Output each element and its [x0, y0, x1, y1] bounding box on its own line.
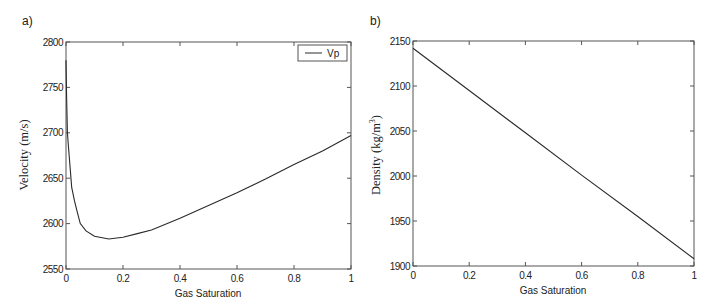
plot-area-a	[66, 42, 351, 269]
x-tick-label: 0.8	[632, 270, 645, 281]
figure: 00.20.40.60.81 255026002650270027502800 …	[0, 0, 713, 306]
y-axis-title-a: Velocity (m/s)	[17, 119, 31, 190]
chart-a: 00.20.40.60.81 255026002650270027502800 …	[17, 37, 354, 300]
y-tick-label: 2050	[390, 126, 411, 137]
x-tick-label: 0	[410, 270, 416, 281]
y-tick-label: 2000	[390, 171, 411, 182]
x-tick-label: 0.4	[519, 270, 532, 281]
x-tick-label: 1	[348, 273, 354, 284]
chart-b: 00.20.40.60.81 190019502000205021002150 …	[368, 36, 697, 297]
x-tick-label: 0.4	[174, 273, 187, 284]
y-axis-title-b-main: Density (kg/m	[369, 123, 383, 195]
x-tick-label: 0	[63, 273, 69, 284]
x-axis-title-a: Gas Saturation	[175, 288, 242, 299]
y-tick-label: 2150	[390, 36, 411, 47]
y-tick-label: 1950	[390, 216, 411, 227]
y-tick-label: 1900	[390, 261, 411, 272]
y-tick-label: 2650	[43, 173, 64, 184]
y-tick-label: 2600	[43, 218, 64, 229]
x-tick-label: 0.6	[575, 270, 588, 281]
y-axis-title-b-close: )	[369, 115, 383, 119]
y-tick-label: 2100	[390, 81, 411, 92]
y-tick-label: 2750	[43, 82, 64, 93]
legend-label-vp: Vp	[327, 48, 340, 59]
legend-a: Vp	[298, 45, 347, 61]
y-axis-title-b: Density (kg/m3)	[368, 115, 383, 195]
x-tick-label: 1	[691, 270, 697, 281]
y-tick-label: 2700	[43, 127, 64, 138]
y-tick-label: 2800	[43, 37, 64, 48]
y-tick-label: 2550	[43, 264, 64, 275]
x-tick-label: 0.2	[117, 273, 130, 284]
x-tick-label: 0.6	[231, 273, 244, 284]
x-tick-label: 0.8	[288, 273, 301, 284]
x-axis-title-b: Gas Saturation	[520, 285, 587, 296]
x-tick-label: 0.2	[463, 270, 476, 281]
